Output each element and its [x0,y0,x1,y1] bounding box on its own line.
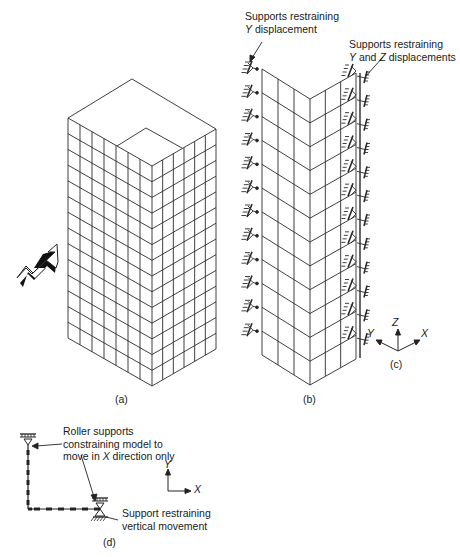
caption-a: (a) [115,393,128,405]
axis-label-y: Y [367,327,374,340]
caption-c: (c) [390,358,402,370]
label-text: displacements [386,51,456,63]
label-vertical-support: Support restraining vertical movement [122,507,211,532]
d-axis-label-y: Y [164,458,171,471]
axis-y-italic: Y [349,51,356,63]
label-text: and [356,51,379,63]
axis-x-italic: X [103,450,110,462]
axis-label-x: X [421,327,428,340]
label-roller-line1: Roller supports [63,425,175,438]
label-supports-y-line2: Y displacement [245,23,339,36]
label-roller-line3: move in X direction only [63,450,175,463]
label-supports-y: Supports restraining Y displacement [245,10,339,35]
label-roller-supports: Roller supports constraining model to mo… [63,425,175,463]
caption-d: (d) [103,536,116,548]
d-axis-label-x: X [194,483,201,496]
label-roller-line2: constraining model to [63,438,175,451]
label-vertical-line2: vertical movement [122,520,211,533]
label-vertical-line1: Support restraining [122,507,211,520]
label-supports-yz-line2: Y and Z displacements [349,51,456,64]
label-supports-yz: Supports restraining Y and Z displacemen… [349,38,456,63]
coordinate-axes [376,329,420,351]
caption-b: (b) [303,393,316,405]
label-text: move in [63,450,103,462]
label-supports-yz-line1: Supports restraining [349,38,456,51]
building-faces-with-supports [241,61,370,385]
label-text: displacement [252,23,317,35]
axis-y-italic: Y [245,23,252,35]
figure-canvas [0,0,460,557]
label-supports-y-line1: Supports restraining [245,10,339,23]
building-isometric [68,79,216,386]
wind-arrow-icon [17,244,58,287]
axis-label-z: Z [392,316,398,329]
